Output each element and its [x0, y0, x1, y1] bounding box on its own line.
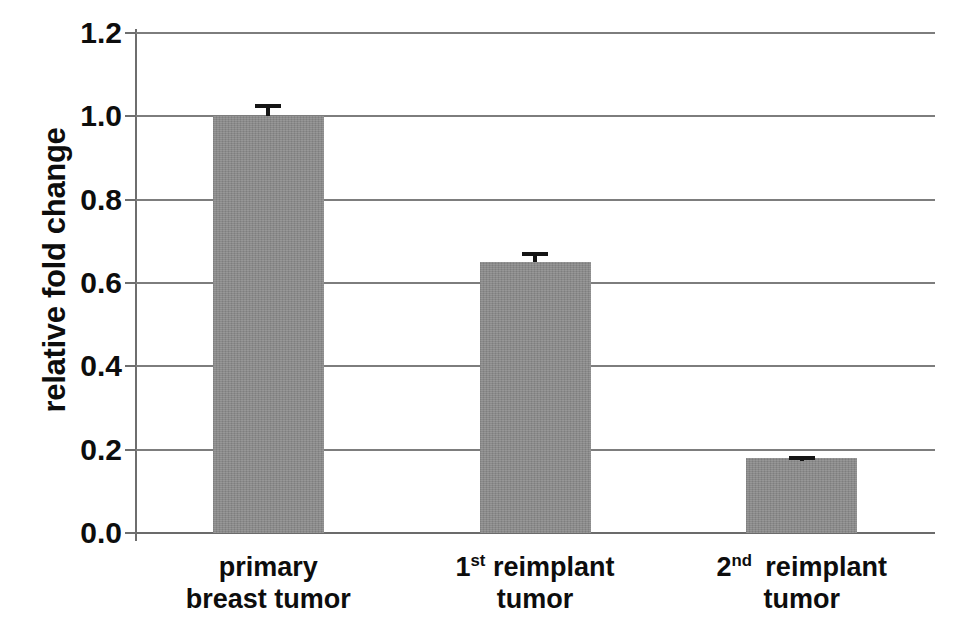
y-axis-tick-mark [125, 365, 136, 367]
error-bar-cap [522, 252, 548, 256]
error-bar-cap [255, 104, 281, 108]
plot-area [135, 33, 935, 533]
y-axis-tick-mark [125, 282, 136, 284]
y-axis-tick-label: 1.0 [42, 101, 122, 131]
x-axis-tick-label: 2nd reimplanttumor [652, 552, 952, 616]
error-bar [746, 456, 857, 461]
bar [480, 262, 591, 533]
x-axis-tick-label-line: 2nd reimplant [652, 552, 952, 584]
ordinal-suffix: st [471, 551, 486, 570]
x-axis-tick-label-line: primary [118, 552, 418, 584]
error-bar [213, 104, 324, 117]
x-axis-tick-label-line: tumor [652, 584, 952, 616]
y-axis-tick-label: 0.0 [42, 518, 122, 548]
ordinal-suffix: nd [731, 551, 751, 570]
x-axis-tick-label: primarybreast tumor [118, 552, 418, 616]
y-axis-tick-label: 0.4 [42, 351, 122, 381]
y-axis-tick-label: 1.2 [42, 18, 122, 48]
y-axis-tick-label: 0.6 [42, 268, 122, 298]
x-axis-tick-label-line: 1st reimplant [385, 552, 685, 584]
bar-chart-figure: relative fold change 0.00.20.40.60.81.01… [0, 0, 959, 635]
y-axis-tick-label: 0.2 [42, 435, 122, 465]
error-bar [480, 252, 591, 262]
gridline [135, 32, 935, 34]
x-axis-tick-label: 1st reimplanttumor [385, 552, 685, 616]
y-axis-tick-mark [125, 32, 136, 34]
bar [213, 116, 324, 533]
y-axis-tick-mark [125, 532, 136, 534]
y-axis-tick-mark [125, 449, 136, 451]
error-bar-cap [789, 456, 815, 460]
x-axis-tick-label-line: tumor [385, 584, 685, 616]
bar [746, 458, 857, 533]
y-axis-tick-labels: 0.00.20.40.60.81.01.2 [36, 0, 122, 635]
y-axis-line [135, 29, 137, 541]
y-axis-tick-mark [125, 115, 136, 117]
x-axis-tick-label-line: breast tumor [118, 584, 418, 616]
y-axis-tick-label: 0.8 [42, 185, 122, 215]
y-axis-tick-mark [125, 199, 136, 201]
